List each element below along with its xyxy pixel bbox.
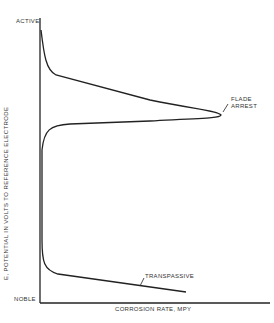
chart <box>0 0 274 323</box>
y-top-label: ACTIVE <box>16 18 39 24</box>
flade-arrest-label: FLADE ARREST <box>231 96 259 110</box>
polarization-curve <box>41 30 221 292</box>
y-axis-label: E, POTENTIAL IN VOLTS TO REFERENCE ELECT… <box>3 107 9 280</box>
x-axis-label: CORROSION RATE, MPY <box>115 306 191 312</box>
y-bottom-label: NOBLE <box>14 296 36 302</box>
transpassive-label: TRANSPASSIVE <box>145 273 194 279</box>
transpassive-arrow <box>140 278 144 286</box>
flade-arrest-arrow <box>223 104 228 112</box>
